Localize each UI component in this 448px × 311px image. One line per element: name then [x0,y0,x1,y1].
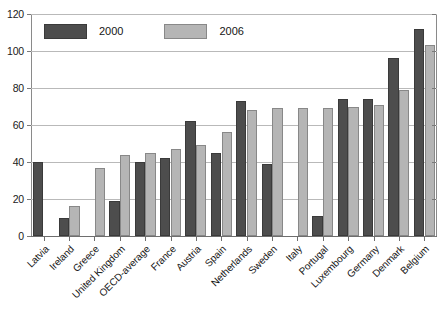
legend-item-2000: 2000 [44,24,123,39]
y-tick-label: 120 [7,9,24,20]
legend-item-2006: 2006 [164,24,243,39]
y-tick-mark [27,88,31,89]
bars-layer [31,14,437,236]
bar-2006 [196,145,206,236]
y-axis: 020406080100120 [0,0,27,311]
x-tick-mark [399,237,400,241]
bar-2006 [425,45,435,236]
y-tick-mark-right [432,125,436,126]
bar-2000 [59,218,69,237]
bar-group [388,14,409,236]
x-axis-label-netherlands: Netherlands [134,244,254,311]
bar-2006 [399,90,409,236]
bar-2000 [236,101,246,236]
x-tick-mark [221,237,222,241]
y-tick-mark [27,125,31,126]
bar-2000 [160,158,170,236]
y-tick-mark [27,236,31,237]
x-axis-label-germany: Germany [260,244,380,311]
x-axis-label-sweden: Sweden [159,244,279,311]
bar-2000 [312,216,322,236]
bar-group [363,14,384,236]
y-tick-mark-right [432,199,436,200]
bar-2000 [33,162,43,236]
light-gray-swatch [164,24,207,39]
x-axis-label-oecd-average: OECD-average [32,244,152,311]
x-tick-mark [44,237,45,241]
x-tick-mark [297,237,298,241]
legend-label-2006: 2006 [219,25,243,37]
bar-2000 [109,201,119,236]
bar-2006 [95,168,105,236]
x-tick-mark [94,237,95,241]
bar-group [312,14,333,236]
x-axis-label-austria: Austria [83,244,203,311]
x-tick-mark [323,237,324,241]
bar-group [84,14,105,236]
y-tick-mark [27,14,31,15]
bar-2000 [185,121,195,236]
bar-2006 [298,108,308,236]
bar-2000 [211,153,221,236]
y-tick-mark [27,51,31,52]
y-tick-mark [27,162,31,163]
bar-group [185,14,206,236]
bar-2000 [262,164,272,236]
bar-group [262,14,283,236]
x-tick-mark [196,237,197,241]
y-tick-label: 20 [13,194,24,205]
x-axis-label-luxembourg: Luxembourg [235,244,355,311]
dark-gray-swatch [44,24,87,39]
bar-2000 [388,58,398,236]
bar-2006 [323,108,333,236]
bar-2006 [247,110,257,236]
bar-2006 [171,149,181,236]
bar-group [109,14,130,236]
y-tick-mark [27,199,31,200]
x-axis-label-spain: Spain [108,244,228,311]
x-tick-mark [171,237,172,241]
legend-label-2000: 2000 [99,25,123,37]
bar-2006 [69,206,79,236]
bar-2006 [120,155,130,236]
x-tick-mark [374,237,375,241]
bar-2000 [363,99,373,236]
y-tick-mark-right [432,14,436,15]
x-tick-mark [145,237,146,241]
bar-group [160,14,181,236]
bar-group [287,14,308,236]
x-tick-mark [424,237,425,241]
y-tick-label: 80 [13,83,24,94]
x-axis-line [31,236,437,237]
x-axis-label-france: France [57,244,177,311]
bar-group [211,14,232,236]
bar-2006 [348,107,358,237]
bar-group [338,14,359,236]
x-tick-mark [348,237,349,241]
y-tick-mark-right [432,236,436,237]
bar-group [236,14,257,236]
bar-group [59,14,80,236]
x-axis-label-belgium: Belgium [311,244,431,311]
x-tick-mark [120,237,121,241]
bar-2000 [135,162,145,236]
y-tick-label: 100 [7,46,24,57]
bar-group [33,14,54,236]
x-axis-label-portugal: Portugal [210,244,330,311]
bar-2006 [145,153,155,236]
bar-2000 [414,29,424,236]
bar-2006 [222,132,232,236]
bar-2000 [338,99,348,236]
y-tick-label: 0 [18,231,24,242]
y-tick-mark-right [432,162,436,163]
y-tick-label: 40 [13,157,24,168]
bar-2006 [272,108,282,236]
x-tick-mark [247,237,248,241]
y-tick-label: 60 [13,120,24,131]
x-axis-label-italy: Italy [184,244,304,311]
y-tick-mark-right [432,88,436,89]
x-tick-mark [272,237,273,241]
bar-2006 [374,105,384,236]
x-axis-label-denmark: Denmark [286,244,406,311]
chart-legend: 2000 2006 [44,22,244,40]
